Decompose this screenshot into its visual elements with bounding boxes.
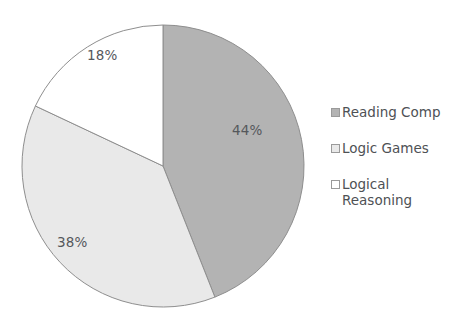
legend-item-reading-comp[interactable]: Reading Comp (331, 104, 458, 120)
slice-value-label-2: 18% (87, 47, 118, 63)
legend-label-2: Logical Reasoning (342, 176, 458, 208)
legend: Reading Comp Logic Games Logical Reasoni… (331, 104, 458, 208)
slice-value-label-1: 38% (57, 234, 88, 250)
legend-swatch-icon-1 (331, 144, 340, 153)
legend-swatch-icon-0 (331, 108, 340, 117)
legend-label-0: Reading Comp (342, 104, 441, 120)
legend-label-1: Logic Games (342, 140, 429, 156)
legend-swatch-icon-2 (331, 180, 340, 189)
pie-plot-area: 44% 38% 18% (0, 0, 320, 333)
legend-item-logic-games[interactable]: Logic Games (331, 140, 458, 156)
pie-chart: 44% 38% 18% Reading Comp Logic Games Log… (0, 0, 458, 333)
pie-slices (22, 25, 304, 307)
legend-item-logical-reasoning[interactable]: Logical Reasoning (331, 176, 458, 208)
pie-svg (0, 0, 320, 333)
slice-value-label-0: 44% (232, 122, 263, 138)
